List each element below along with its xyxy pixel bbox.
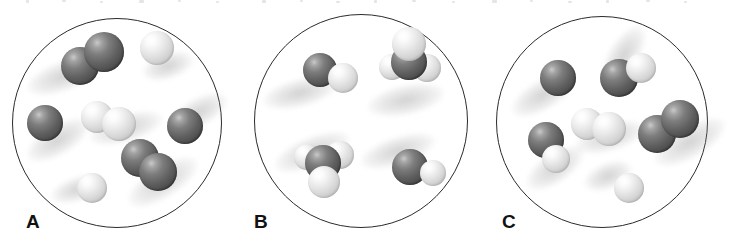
text-fragment [530,0,533,2]
light-atom [392,27,426,61]
text-fragment [452,1,455,3]
text-fragment [412,0,416,2]
text-fragment [262,0,266,3]
light-atom [614,173,644,203]
panel-label-b: B [254,212,268,231]
panel-c: C [0,0,240,246]
dark-atom [661,100,699,138]
panel-label-c: C [502,212,516,231]
light-atom [626,53,656,83]
text-fragment [606,0,609,3]
light-atom [420,160,446,186]
text-fragment [336,1,340,3]
light-atom [328,63,358,93]
text-fragment [492,0,497,3]
text-fragment [300,0,303,2]
light-atom [592,112,626,146]
light-atom [308,166,340,198]
dark-atom [540,60,576,96]
text-fragment [568,1,572,3]
text-fragment [684,1,687,3]
text-fragment [646,0,650,2]
text-fragment [374,0,377,3]
light-atom [542,145,570,173]
flask-outline-b [254,14,468,228]
